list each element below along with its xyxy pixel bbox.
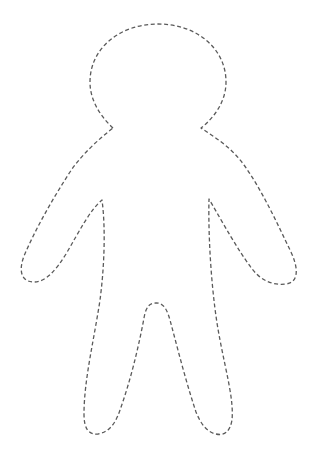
figure-canvas bbox=[0, 0, 314, 466]
person-outline-figure bbox=[0, 0, 314, 466]
person-outline-path bbox=[21, 24, 296, 434]
